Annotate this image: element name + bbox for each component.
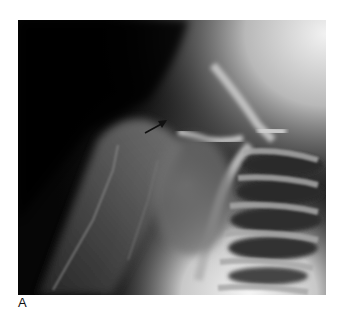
panel-label: A [18,296,27,310]
xray-image [18,20,326,295]
xray-rendering [18,20,326,295]
